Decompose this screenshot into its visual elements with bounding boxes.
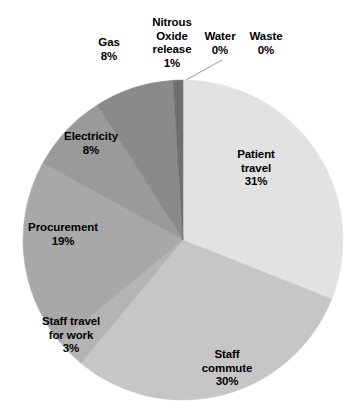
pie-chart-svg (0, 0, 358, 417)
pie-chart: Gas 8% Nitrous Oxide release 1% Water 0%… (0, 0, 358, 417)
water-leader-line (186, 60, 222, 80)
pie-slice-group (23, 80, 343, 400)
